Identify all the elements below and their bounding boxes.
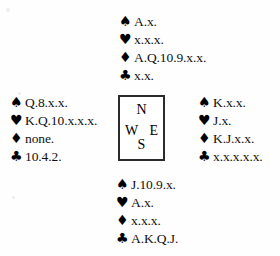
west-clubs-cards: 10.4.2. xyxy=(25,148,61,166)
south-spades-cards: J.10.9.x. xyxy=(131,176,176,194)
south-clubs-row: ♣ A.K.Q.J. xyxy=(116,229,178,247)
hand-west: ♠ Q.8.x.x. ♥ K.Q.10.x.x.x. ♦ none. ♣ 10.… xyxy=(10,93,97,165)
west-spades-row: ♠ Q.8.x.x. xyxy=(10,93,97,111)
north-clubs-cards: x.x. xyxy=(134,67,154,85)
hand-east: ♠ K.x.x. ♥ J.x. ♦ K.J.x.x. ♣ x.x.x.x.x. xyxy=(198,93,263,165)
heart-icon: ♥ xyxy=(10,111,25,129)
south-clubs-cards: A.K.Q.J. xyxy=(131,230,178,248)
west-clubs-row: ♣ 10.4.2. xyxy=(10,147,97,165)
west-diamonds-row: ♦ none. xyxy=(10,129,97,147)
east-diamonds-cards: K.J.x.x. xyxy=(213,130,254,148)
north-diamonds-row: ♦ A.Q.10.9.x.x. xyxy=(119,48,206,66)
south-hearts-cards: A.x. xyxy=(131,194,154,212)
north-hearts-cards: x.x.x. xyxy=(134,31,164,49)
south-hearts-row: ♥ A.x. xyxy=(116,193,178,211)
diamond-icon: ♦ xyxy=(116,211,131,229)
club-icon: ♣ xyxy=(119,66,134,84)
south-diamonds-cards: x.x.x. xyxy=(131,212,161,230)
spade-icon: ♠ xyxy=(116,175,131,193)
hand-south: ♠ J.10.9.x. ♥ A.x. ♦ x.x.x. ♣ A.K.Q.J. xyxy=(116,175,178,247)
east-hearts-row: ♥ J.x. xyxy=(198,111,263,129)
east-spades-row: ♠ K.x.x. xyxy=(198,93,263,111)
scan-speck xyxy=(6,8,10,12)
club-icon: ♣ xyxy=(116,229,131,247)
heart-icon: ♥ xyxy=(198,111,213,129)
compass-label-south: S xyxy=(120,138,163,152)
east-diamonds-row: ♦ K.J.x.x. xyxy=(198,129,263,147)
east-spades-cards: K.x.x. xyxy=(213,94,246,112)
west-hearts-row: ♥ K.Q.10.x.x.x. xyxy=(10,111,97,129)
heart-icon: ♥ xyxy=(116,193,131,211)
west-spades-cards: Q.8.x.x. xyxy=(25,94,68,112)
north-clubs-row: ♣ x.x. xyxy=(119,66,206,84)
spade-icon: ♠ xyxy=(10,93,25,111)
south-spades-row: ♠ J.10.9.x. xyxy=(116,175,178,193)
east-clubs-cards: x.x.x.x.x. xyxy=(213,148,263,166)
hand-north: ♠ A.x. ♥ x.x.x. ♦ A.Q.10.9.x.x. ♣ x.x. xyxy=(119,12,206,84)
compass-label-north: N xyxy=(120,103,163,117)
north-spades-row: ♠ A.x. xyxy=(119,12,206,30)
east-hearts-cards: J.x. xyxy=(213,112,231,130)
south-diamonds-row: ♦ x.x.x. xyxy=(116,211,178,229)
diamond-icon: ♦ xyxy=(119,48,134,66)
club-icon: ♣ xyxy=(198,147,213,165)
spade-icon: ♠ xyxy=(119,12,134,30)
compass-label-east: E xyxy=(149,124,158,138)
west-diamonds-cards: none. xyxy=(25,130,54,148)
compass-label-west: W xyxy=(125,124,138,138)
compass-box: N W E S xyxy=(118,95,165,161)
bridge-deal-diagram: ♠ A.x. ♥ x.x.x. ♦ A.Q.10.9.x.x. ♣ x.x. ♠… xyxy=(0,0,280,256)
spade-icon: ♠ xyxy=(198,93,213,111)
club-icon: ♣ xyxy=(10,147,25,165)
north-spades-cards: A.x. xyxy=(134,13,157,31)
heart-icon: ♥ xyxy=(119,30,134,48)
east-clubs-row: ♣ x.x.x.x.x. xyxy=(198,147,263,165)
north-hearts-row: ♥ x.x.x. xyxy=(119,30,206,48)
diamond-icon: ♦ xyxy=(198,129,213,147)
west-hearts-cards: K.Q.10.x.x.x. xyxy=(25,112,97,130)
diamond-icon: ♦ xyxy=(10,129,25,147)
north-diamonds-cards: A.Q.10.9.x.x. xyxy=(134,49,206,67)
scan-speck xyxy=(12,196,15,199)
